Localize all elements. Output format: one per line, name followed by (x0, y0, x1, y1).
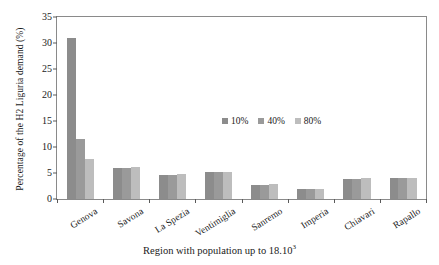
bar (269, 184, 278, 199)
bar (85, 159, 94, 199)
x-tick-label: Ventimiglia (194, 206, 238, 239)
bar (251, 185, 260, 199)
legend-entry: 10% (222, 116, 248, 126)
bar (315, 189, 324, 199)
bar (76, 139, 85, 199)
x-axis-title-text: Region with population up to 18.10 (143, 245, 292, 256)
legend-entry: 40% (258, 116, 284, 126)
bar (306, 189, 315, 199)
y-tick-mark (53, 95, 57, 96)
x-axis-title-exponent: 3 (292, 243, 296, 251)
legend-entry: 80% (295, 116, 321, 126)
bar (398, 178, 407, 199)
x-tick-mark (380, 199, 381, 203)
x-tick-mark (57, 199, 58, 203)
x-tick-mark (426, 199, 427, 203)
legend-swatch-icon (295, 118, 301, 124)
bar (205, 172, 214, 199)
x-tick-label: Savona (116, 206, 146, 230)
legend-label: 10% (231, 116, 248, 126)
y-tick-mark (53, 69, 57, 70)
chart-figure: Percentage of the H2 Liguria demand (%) … (0, 0, 439, 265)
plot-area: 05101520253035 GenovaSavonaLa SpeziaVent… (56, 16, 427, 200)
legend-swatch-icon (222, 118, 228, 124)
bar (177, 174, 186, 199)
y-tick-mark (53, 173, 57, 174)
legend-label: 40% (267, 116, 284, 126)
bar (297, 189, 306, 199)
bar (67, 38, 76, 199)
x-tick-mark (242, 199, 243, 203)
x-tick-label: Imperia (299, 206, 330, 231)
bar (352, 179, 361, 199)
y-axis-title: Percentage of the H2 Liguria demand (%) (15, 9, 25, 209)
chart-legend: 10%40%80% (222, 116, 321, 126)
x-tick-mark (195, 199, 196, 203)
x-tick-label: Chiavari (342, 206, 376, 232)
bar (223, 172, 232, 199)
bar (122, 168, 131, 199)
bar (390, 178, 399, 199)
x-tick-mark (149, 199, 150, 203)
x-tick-label: Sanremo (249, 206, 284, 233)
x-axis-title: Region with population up to 18.103 (0, 243, 439, 256)
x-tick-mark (334, 199, 335, 203)
x-tick-mark (288, 199, 289, 203)
y-tick-mark (53, 147, 57, 148)
bar (214, 172, 223, 199)
y-tick-mark (53, 17, 57, 18)
y-tick-mark (53, 121, 57, 122)
bar (159, 175, 168, 199)
bar (260, 185, 269, 199)
x-tick-label: Rapallo (391, 206, 422, 231)
y-tick-mark (53, 43, 57, 44)
bar (131, 167, 140, 199)
x-tick-label: Genova (68, 206, 99, 230)
bar (168, 175, 177, 199)
legend-label: 80% (304, 116, 321, 126)
legend-swatch-icon (258, 118, 264, 124)
x-tick-label: La Spezia (154, 206, 192, 235)
bar (113, 168, 122, 199)
bar (343, 179, 352, 199)
x-tick-mark (103, 199, 104, 203)
bar (361, 178, 370, 199)
bar (407, 178, 416, 199)
